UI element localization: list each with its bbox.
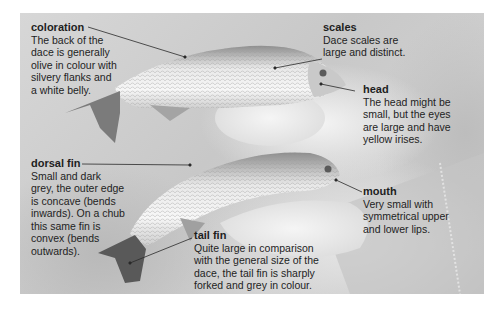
annotation-title: coloration bbox=[31, 21, 117, 34]
annotation-coloration: coloration The back of the dace is gener… bbox=[31, 21, 117, 96]
leader-line-mouth bbox=[336, 180, 362, 192]
annotation-text: The head might be small, but the eyes ar… bbox=[363, 96, 451, 146]
annotation-text: Quite large in comparison with the gener… bbox=[194, 242, 319, 292]
annotation-tail-fin: tail fin Quite large in comparison with … bbox=[194, 229, 319, 292]
annotation-text: Small and dark grey, the outer edge is c… bbox=[31, 170, 125, 258]
annotation-mouth: mouth Very small with symmetrical upper … bbox=[363, 185, 449, 235]
annotation-title: scales bbox=[323, 21, 405, 34]
annotation-title: head bbox=[363, 83, 451, 96]
annotation-dorsal-fin: dorsal fin Small and dark grey, the oute… bbox=[31, 157, 125, 257]
annotation-head: head The head might be small, but the ey… bbox=[363, 83, 451, 146]
annotation-title: dorsal fin bbox=[31, 157, 125, 170]
annotation-title: tail fin bbox=[194, 229, 319, 242]
annotation-title: mouth bbox=[363, 185, 449, 198]
annotation-text: The back of the dace is generally olive … bbox=[31, 34, 117, 97]
annotation-text: Dace scales are large and distinct. bbox=[323, 34, 405, 59]
annotation-text: Very small with symmetrical upper and lo… bbox=[363, 198, 449, 236]
annotation-scales: scales Dace scales are large and distinc… bbox=[323, 21, 405, 59]
